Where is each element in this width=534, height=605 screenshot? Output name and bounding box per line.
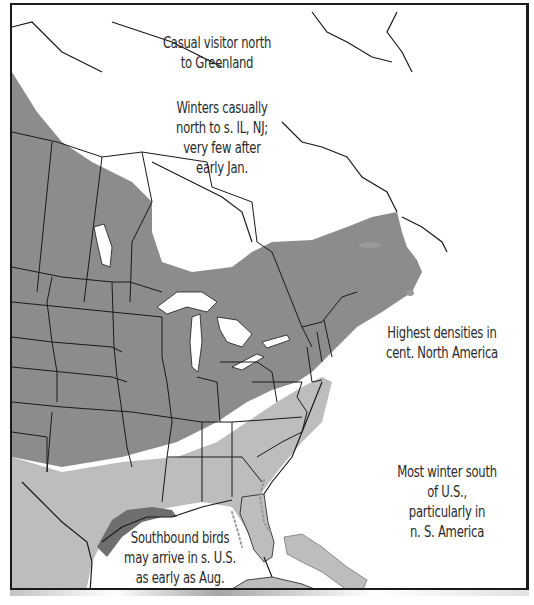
annotation-winters-casually: Winters casually north to s. IL, NJ; ver… <box>158 98 287 178</box>
annotation-greenland: Casual visitor north to Greenland <box>140 33 295 73</box>
sable-island <box>406 290 414 296</box>
bahamas <box>284 534 367 590</box>
annotation-highest-densities: Highest densities in cent. North America <box>369 323 515 363</box>
page-shadow <box>10 590 529 596</box>
annotation-southbound: Southbound birds may arrive in s. U.S. a… <box>107 528 253 588</box>
anticosti-island <box>359 242 381 248</box>
annotation-most-winter: Most winter south of U.S., particularly … <box>378 462 516 542</box>
map-frame: Casual visitor north to Greenland Winter… <box>10 3 529 590</box>
